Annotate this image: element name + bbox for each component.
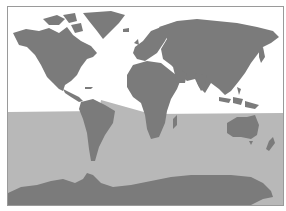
world-map-frame <box>7 6 284 206</box>
world-map <box>8 7 283 205</box>
greenland <box>83 11 125 39</box>
north-america <box>13 27 97 91</box>
